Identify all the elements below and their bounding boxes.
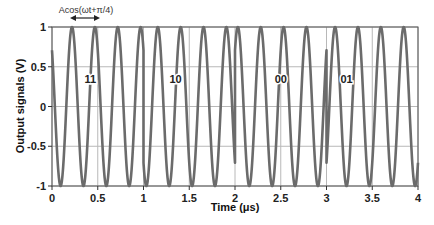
y-tick-label: 0: [40, 101, 46, 113]
symbol-label: 10: [169, 73, 181, 85]
formula-annotation: Acos(ωt+π/4): [59, 5, 114, 15]
x-tick-label: 3.5: [365, 192, 380, 204]
x-axis-label: Time (μs): [211, 201, 260, 213]
x-tick-label: 3: [323, 192, 329, 204]
x-tick-label: 4: [415, 192, 422, 204]
x-tick-label: 2.5: [273, 192, 288, 204]
y-tick-labels: 10.50-0.5-1: [27, 21, 52, 192]
x-tick-label: 1: [140, 192, 146, 204]
symbol-label: 01: [341, 73, 353, 85]
y-axis-label: Output signals (V): [14, 58, 26, 153]
y-tick-label: -0.5: [27, 140, 46, 152]
chart: 10.50-0.5-1 00.511.522.533.54 Time (μs) …: [0, 0, 434, 225]
y-tick-label: 0.5: [31, 61, 46, 73]
y-tick-label: -1: [36, 180, 46, 192]
symbol-label: 00: [275, 73, 287, 85]
y-tick-label: 1: [40, 21, 46, 33]
x-tick-label: 0: [49, 192, 55, 204]
symbol-label: 11: [85, 73, 97, 85]
x-tick-label: 1.5: [182, 192, 197, 204]
x-tick-label: 0.5: [90, 192, 105, 204]
period-arrow-icon: [70, 15, 100, 21]
